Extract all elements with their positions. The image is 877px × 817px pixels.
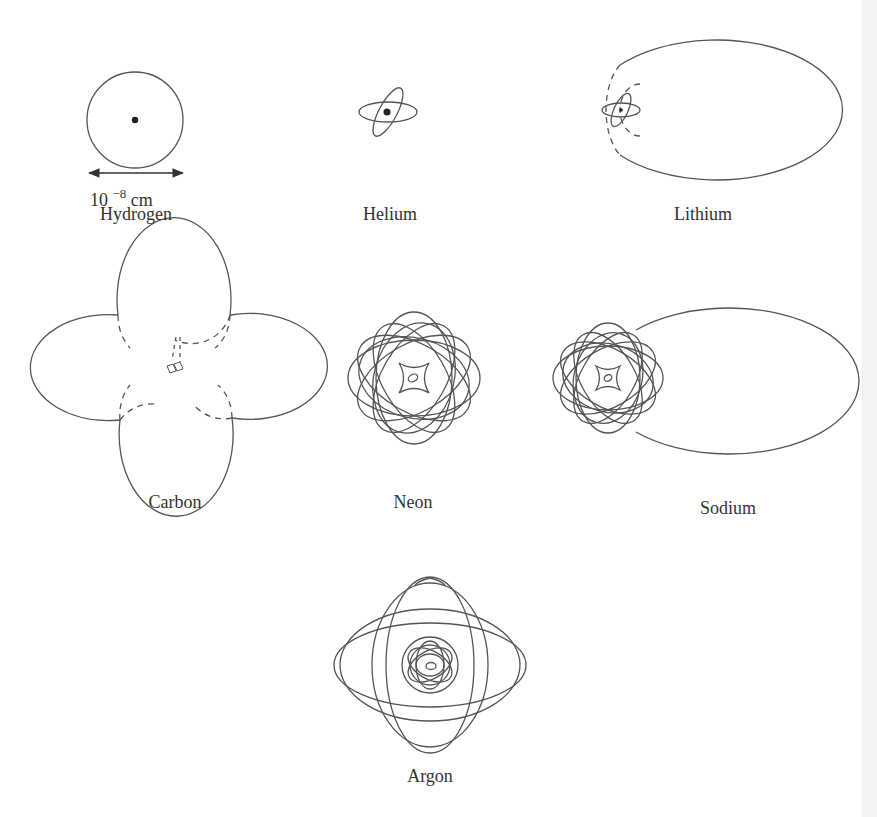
- sodium-label: Sodium: [700, 498, 756, 519]
- argon-atom: [334, 577, 526, 753]
- lithium-label: Lithium: [674, 204, 732, 225]
- argon-label: Argon: [407, 766, 453, 787]
- scale-exponent: −8: [113, 186, 127, 201]
- neon-atom: [343, 310, 484, 446]
- neon-label: Neon: [394, 492, 433, 513]
- helium-label: Helium: [363, 204, 417, 225]
- hydrogen-atom: [87, 72, 183, 173]
- carbon-label: Carbon: [149, 492, 202, 513]
- hydrogen-label: Hydrogen: [100, 204, 172, 225]
- carbon-atom: [30, 218, 327, 517]
- helium-atom: [359, 84, 417, 140]
- lithium-atom: [602, 40, 843, 180]
- sodium-atom: [548, 308, 859, 454]
